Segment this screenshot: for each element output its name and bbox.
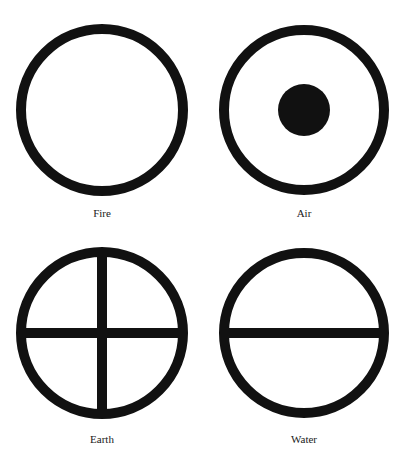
air-symbol (202, 0, 406, 220)
circle-cross-icon (0, 223, 204, 433)
circle-line-icon (202, 223, 406, 433)
water-label: Water (244, 433, 364, 445)
circle-dot-icon (202, 0, 406, 220)
fire-symbol (0, 0, 204, 220)
circle-icon (0, 0, 204, 220)
earth-symbol (0, 223, 204, 433)
earth-label: Earth (42, 433, 162, 445)
center-dot-icon (278, 84, 330, 136)
fire-label: Fire (42, 207, 162, 219)
water-symbol (202, 223, 406, 433)
air-label: Air (244, 207, 364, 219)
